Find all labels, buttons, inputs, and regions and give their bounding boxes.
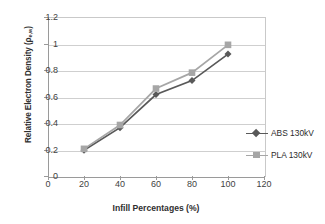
legend-entry-pla[interactable]: PLA 130kV — [246, 144, 325, 166]
y-tick-label-1.2: 1.2 — [28, 13, 58, 22]
x-tick-label-60: 60 — [141, 180, 171, 189]
x-tick-label-0: 0 — [33, 180, 63, 189]
gridline-0.8 — [49, 71, 265, 72]
legend-label-abs: ABS 130kV — [271, 128, 314, 138]
y-tick-label-0.8: 0.8 — [28, 66, 58, 75]
x-tick-label-40: 40 — [105, 180, 135, 189]
x-tick-label-20: 20 — [69, 180, 99, 189]
legend-swatch-diamond-icon — [246, 128, 268, 139]
y-axis-title-subscript: e,w — [27, 29, 33, 38]
y-axis-title: Relative Electron Density (ρe,w) — [24, 0, 33, 170]
y-tick-label-0.2: 0.2 — [28, 146, 58, 155]
gridline-0.6 — [49, 98, 265, 99]
gridline-1.0 — [49, 45, 265, 46]
y-tick-label-0.4: 0.4 — [28, 119, 58, 128]
plot-area — [48, 17, 266, 177]
x-axis-line — [49, 177, 265, 178]
gridline-0.2 — [49, 151, 265, 152]
y-axis-title-suffix: ) — [24, 26, 33, 29]
x-tick-label-80: 80 — [177, 180, 207, 189]
chart-container: Relative Electron Density (ρe,w) 1.2 1 0… — [0, 0, 325, 224]
x-axis-title: Infill Percentages (%) — [48, 203, 264, 213]
y-tick-label-1: 1 — [28, 40, 58, 49]
chart-legend: ABS 130kV PLA 130kV — [246, 122, 325, 166]
legend-swatch-square-icon — [246, 150, 268, 161]
legend-entry-abs[interactable]: ABS 130kV — [246, 122, 325, 144]
y-tick-label-0.6: 0.6 — [28, 93, 58, 102]
gridline-0.4 — [49, 124, 265, 125]
x-tick-label-120: 120 — [249, 180, 279, 189]
legend-label-pla: PLA 130kV — [271, 150, 312, 160]
x-tick-label-100: 100 — [213, 180, 243, 189]
